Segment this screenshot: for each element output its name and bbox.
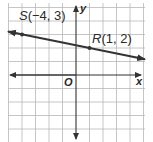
point-r-label: R(1, 2) bbox=[92, 32, 132, 45]
point-r-name: R bbox=[92, 31, 101, 46]
origin-label: O bbox=[64, 77, 73, 88]
line-sr-left bbox=[8, 32, 76, 46]
point-s-label: S(−4, 3) bbox=[19, 9, 66, 22]
point-s-name: S bbox=[19, 8, 28, 23]
y-axis-label: y bbox=[80, 3, 86, 14]
point-s-coords: (−4, 3) bbox=[28, 8, 66, 23]
line-sr bbox=[76, 45, 145, 59]
x-axis-label: x bbox=[136, 76, 142, 87]
point-r bbox=[88, 46, 92, 50]
point-r-coords: (1, 2) bbox=[101, 31, 131, 46]
grid bbox=[9, 3, 146, 142]
point-s bbox=[20, 33, 24, 37]
